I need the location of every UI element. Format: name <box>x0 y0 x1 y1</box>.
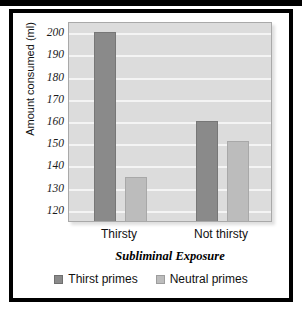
x-axis-tick-labels: ThirstyNot thirsty <box>68 227 272 245</box>
frame-rule-right <box>289 9 293 302</box>
y-tick-label: 160 <box>16 116 68 128</box>
legend-item: Thirst primes <box>54 272 137 286</box>
legend-item: Neutral primes <box>156 272 248 286</box>
y-tick-label: 180 <box>16 72 68 84</box>
dark-gray-swatch <box>54 275 63 284</box>
bar-chart: Amount consumed (ml) 1201301401501601701… <box>13 13 289 298</box>
x-tick-label: Not thirsty <box>194 227 248 241</box>
bar <box>94 32 116 221</box>
y-tick-label: 130 <box>16 183 68 195</box>
legend-label: Neutral primes <box>170 272 248 286</box>
x-axis-title: Subliminal Exposure <box>68 249 272 264</box>
bar <box>125 177 147 221</box>
frame-rule-bottom <box>9 298 293 302</box>
figure-frame: Amount consumed (ml) 1201301401501601701… <box>0 0 302 316</box>
x-tick-label: Thirsty <box>101 227 137 241</box>
y-axis-tick-labels: 120130140150160170180190200 <box>13 22 68 222</box>
y-tick-label: 190 <box>16 50 68 62</box>
y-tick-label: 140 <box>16 161 68 173</box>
chart-legend: Thirst primesNeutral primes <box>13 272 289 286</box>
frame-rule-top-outer <box>0 0 302 6</box>
legend-label: Thirst primes <box>68 272 137 286</box>
plot-area <box>68 22 272 222</box>
light-gray-swatch <box>156 275 165 284</box>
y-tick-label: 200 <box>16 27 68 39</box>
y-tick-label: 170 <box>16 94 68 106</box>
y-tick-label: 120 <box>16 205 68 217</box>
y-tick-label: 150 <box>16 138 68 150</box>
bar <box>196 121 218 221</box>
bar <box>227 141 249 221</box>
